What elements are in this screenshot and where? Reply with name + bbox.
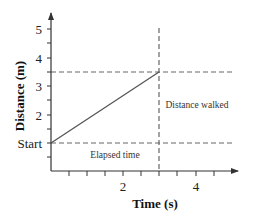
chart: 5 4 3 2 Start 2 4 Time (s) Distance (m) … — [0, 0, 253, 221]
x-tick-label-4: 4 — [193, 179, 200, 194]
y-tick-label-2: 2 — [36, 108, 43, 123]
y-axis-title: Distance (m) — [12, 61, 27, 131]
annotation-distance-walked: Distance walked — [165, 100, 228, 110]
y-tick-label-start: Start — [17, 136, 42, 151]
annotation-elapsed-time: Elapsed time — [90, 150, 139, 160]
y-tick-label-5: 5 — [36, 22, 43, 37]
y-tick-label-4: 4 — [36, 51, 43, 66]
position-line — [51, 72, 159, 143]
x-tick-label-2: 2 — [120, 179, 127, 194]
x-axis-title: Time (s) — [132, 196, 178, 211]
x-ticks — [69, 171, 214, 176]
y-tick-label-3: 3 — [36, 79, 43, 94]
